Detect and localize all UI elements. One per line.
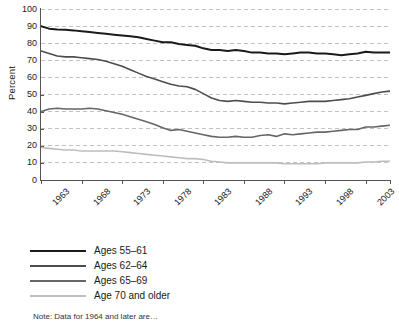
- legend-item: Ages 62–64: [30, 258, 260, 273]
- y-tick-label: 20: [3, 141, 37, 150]
- chart-figure: Percent 0102030405060708090100 196319681…: [0, 0, 399, 321]
- x-tick-mark: [82, 180, 83, 184]
- x-tick-label: 1988: [254, 187, 275, 208]
- series-line: [41, 148, 390, 164]
- y-tick-label: 30: [3, 124, 37, 133]
- x-tick-mark: [390, 180, 391, 184]
- y-axis-tick-labels: 0102030405060708090100: [0, 0, 37, 190]
- legend-label: Ages 65–69: [94, 275, 147, 286]
- chart-legend: Ages 55–61Ages 62–64Ages 65–69Age 70 and…: [30, 243, 260, 303]
- plot-area: [41, 9, 390, 180]
- legend-line-swatch: [30, 288, 86, 303]
- y-tick-label: 60: [3, 73, 37, 82]
- x-tick-label: 1983: [213, 187, 234, 208]
- figure-note: Note: Data for 1964 and later are…: [33, 312, 383, 321]
- series-lines: [41, 9, 390, 180]
- series-line: [41, 108, 390, 137]
- legend-item: Age 70 and older: [30, 288, 260, 303]
- legend-label: Ages 62–64: [94, 260, 147, 271]
- x-tick-mark: [244, 180, 245, 184]
- x-tick-label: 2003: [376, 187, 397, 208]
- y-tick-label: 100: [3, 5, 37, 14]
- y-tick-label: 50: [3, 90, 37, 99]
- x-tick-label: 1993: [294, 187, 315, 208]
- legend-line-swatch: [30, 258, 86, 273]
- x-tick-mark: [122, 180, 123, 184]
- y-tick-label: 70: [3, 56, 37, 65]
- x-tick-label: 1963: [51, 187, 72, 208]
- x-tick-label: 1998: [335, 187, 356, 208]
- legend-line-swatch: [30, 243, 86, 258]
- y-tick-label: 10: [3, 158, 37, 167]
- legend-line-swatch: [30, 273, 86, 288]
- legend-label: Ages 55–61: [94, 245, 147, 256]
- series-line: [41, 26, 390, 55]
- x-tick-mark: [284, 180, 285, 184]
- x-tick-label: 1973: [132, 187, 153, 208]
- legend-item: Ages 55–61: [30, 243, 260, 258]
- x-tick-label: 1968: [91, 187, 112, 208]
- y-tick-label: 40: [3, 107, 37, 116]
- x-tick-mark: [325, 180, 326, 184]
- x-axis-tick-labels: 1963196819731978198319881993199820032006: [0, 180, 399, 220]
- series-line: [41, 51, 390, 104]
- y-tick-label: 80: [3, 39, 37, 48]
- x-tick-label: 1978: [173, 187, 194, 208]
- x-tick-mark: [366, 180, 367, 184]
- x-tick-mark: [41, 180, 42, 184]
- x-tick-mark: [203, 180, 204, 184]
- legend-item: Ages 65–69: [30, 273, 260, 288]
- legend-label: Age 70 and older: [94, 290, 170, 301]
- y-tick-label: 90: [3, 22, 37, 31]
- x-tick-mark: [163, 180, 164, 184]
